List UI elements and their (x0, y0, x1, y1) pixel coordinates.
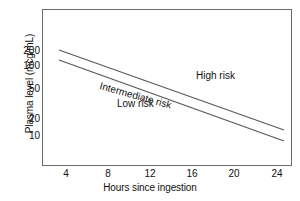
x-tick-label: 16 (177, 168, 207, 180)
x-tick-label: 20 (219, 168, 249, 180)
x-tick-label: 4 (51, 168, 81, 180)
x-tick-label: 24 (262, 168, 292, 180)
y-tick-label: 50 (2, 84, 40, 94)
x-tick-label: 8 (93, 168, 123, 180)
upper-treatment-line (59, 50, 284, 130)
y-tick-label: 200 (2, 46, 40, 56)
chart-lines-layer (42, 9, 292, 166)
chart-container: High risk Intermediate risk Low risk Pla… (0, 0, 300, 201)
annotation-low-risk: Low risk (117, 98, 154, 109)
y-tick-label: 10 (2, 131, 40, 141)
annotation-high-risk: High risk (196, 70, 235, 81)
x-axis-title: Hours since ingestion (0, 182, 300, 193)
y-tick-label: 20 (2, 114, 40, 124)
x-axis-tick-labels: 4 8 12 16 20 24 (0, 168, 300, 182)
y-tick-label: 100 (2, 61, 40, 71)
x-tick-label: 12 (135, 168, 165, 180)
